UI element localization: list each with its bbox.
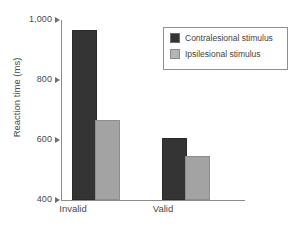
y-axis-tick-label: 600 [8, 134, 52, 144]
legend-swatch-icon-ipsilesional [170, 49, 180, 59]
legend-item-contralesional: Contralesional stimulus [170, 33, 287, 43]
y-axis-tick-mark [55, 17, 60, 23]
y-axis-tick-label: 1,000 [8, 14, 52, 24]
y-axis-tick-mark [55, 137, 60, 143]
bar-invalid-ipsilesional [95, 120, 120, 200]
legend-swatch-icon-contralesional [170, 33, 180, 43]
bar-invalid-contralesional [72, 30, 97, 200]
legend-item-ipsilesional: Ipsilesional stimulus [170, 49, 287, 59]
legend-label-contralesional: Contralesional stimulus [185, 33, 273, 43]
bar-valid-ipsilesional [185, 156, 210, 200]
y-axis-tick-mark [55, 77, 60, 83]
bar-valid-contralesional [162, 138, 187, 200]
x-axis-line [61, 200, 245, 201]
x-axis-label-valid: Valid [123, 203, 203, 214]
bar-chart-figure: Reaction time (ms) 4006008001,000 Invali… [0, 0, 302, 228]
y-axis-tick-label: 800 [8, 74, 52, 84]
legend-label-ipsilesional: Ipsilesional stimulus [185, 49, 261, 59]
x-axis-label-invalid: Invalid [33, 203, 113, 214]
chart-legend: Contralesional stimulus Ipsilesional sti… [163, 27, 288, 70]
bar-group-invalid [72, 20, 120, 200]
